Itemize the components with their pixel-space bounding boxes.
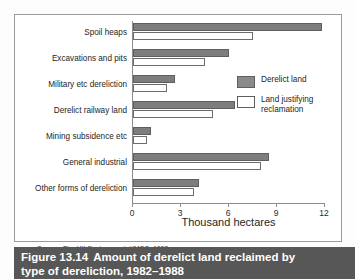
bar-land-justifying-reclamation [133, 162, 261, 170]
bar-derelict-land [133, 153, 269, 161]
legend-swatch-land-justifying-reclamation [237, 96, 255, 108]
bar-derelict-land [133, 101, 235, 109]
category-label: Mining subsidence etc [46, 132, 127, 141]
x-axis-tick [228, 203, 229, 207]
bar-derelict-land [133, 23, 322, 31]
category-label: Excavations and pits [52, 54, 127, 63]
legend-label-derelict-land: Derelict land [261, 75, 307, 85]
figure-container: Spoil heapsExcavations and pitsMilitary … [0, 0, 355, 279]
bar-land-justifying-reclamation [133, 58, 205, 66]
bar-derelict-land [133, 127, 151, 135]
bar-land-justifying-reclamation [133, 84, 167, 92]
x-axis-title: Thousand hectares [132, 216, 325, 228]
figure-caption-bar: Figure 13.14Amount of derelict land recl… [14, 247, 355, 279]
caption-line-1: Figure 13.14Amount of derelict land recl… [21, 250, 349, 264]
bar-derelict-land [133, 75, 175, 83]
caption-line-2: type of dereliction, 1982–1988 [21, 264, 349, 278]
legend-swatch-derelict-land [237, 76, 255, 88]
legend-item-land-justifying-reclamation: Land justifying reclamation [237, 95, 341, 115]
category-label: Spoil heaps [84, 28, 127, 37]
legend-label-land-justifying-reclamation: Land justifying reclamation [261, 95, 341, 115]
category-axis-labels: Spoil heapsExcavations and pitsMilitary … [15, 21, 127, 203]
bar-land-justifying-reclamation [133, 136, 147, 144]
category-label: General industrial [63, 158, 127, 167]
bar-derelict-land [133, 179, 199, 187]
bar-land-justifying-reclamation [133, 188, 194, 196]
legend-item-derelict-land: Derelict land [237, 75, 341, 88]
bar-land-justifying-reclamation [133, 32, 253, 40]
caption-title-part-1: Amount of derelict land reclaimed by [93, 251, 295, 263]
category-label: Military etc dereliction [48, 80, 127, 89]
x-axis-tick [132, 203, 133, 207]
bar-derelict-land [133, 49, 229, 57]
chart-legend: Derelict land Land justifying reclamatio… [237, 75, 341, 122]
caption-figure-number: Figure 13.14 [21, 251, 88, 263]
chart-frame: Spoil heapsExcavations and pitsMilitary … [14, 14, 342, 242]
x-axis-tick [324, 203, 325, 207]
x-axis-tick [276, 203, 277, 207]
category-label: Other forms of dereliction [35, 184, 127, 193]
category-label: Derelict railway land [54, 106, 127, 115]
x-axis-tick [180, 203, 181, 207]
bar-land-justifying-reclamation [133, 110, 213, 118]
